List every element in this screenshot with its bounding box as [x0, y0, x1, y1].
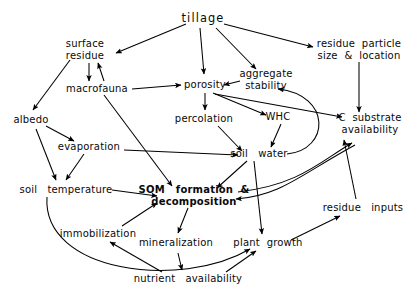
node-som: SOM formation & decomposition [139, 184, 250, 208]
edge-macrofauna-to-porosity [132, 85, 181, 89]
edge-surface-to-albedo [33, 60, 70, 110]
node-whc: WHC [266, 111, 291, 123]
node-nutrient: nutrient availability [134, 273, 242, 285]
node-soil_temp: soil temperature [20, 184, 113, 196]
node-plant_growth: plant growth [233, 237, 302, 249]
edge-whc-to-soil_water [271, 124, 281, 147]
node-residue_pls: residue particle size & location [317, 38, 401, 62]
edge-tillage-to-residue_pls [224, 24, 313, 47]
edge-mineralization-to-nutrient [178, 253, 182, 270]
node-surface: surface residue [66, 38, 104, 62]
node-mineralization: mineralization [139, 237, 213, 249]
edge-tillage-to-porosity [200, 28, 204, 74]
node-macrofauna: macrofauna [66, 83, 128, 95]
edge-residue_inputs-to-c_substrate [344, 140, 356, 199]
edge-albedo-to-soil_temp [36, 129, 56, 180]
edge-tillage-to-surface [116, 24, 186, 53]
edge-aggregate-to-porosity [224, 81, 240, 85]
node-albedo: albedo [13, 114, 48, 126]
edge-albedo-to-evaporation [46, 126, 74, 141]
edge-evaporation-to-soil_temp [66, 154, 84, 180]
node-evaporation: evaporation [58, 141, 120, 153]
node-c_substrate: C substrate availability [338, 112, 401, 136]
edge-soil_water-to-plant_growth [254, 161, 262, 234]
edge-tillage-to-aggregate [216, 28, 256, 69]
edge-som-to-mineralization [178, 208, 188, 233]
concept-map-canvas: tillagesurface residueresidue particle s… [0, 0, 417, 306]
edge-porosity-to-whc [213, 93, 266, 115]
node-soil_water: soil water [230, 148, 287, 160]
edge-evaporation-to-soil_water [124, 150, 238, 155]
node-aggregate: aggregate stability [239, 68, 292, 92]
node-porosity: porosity [184, 79, 226, 91]
node-immobilization: immobilization [60, 228, 136, 240]
node-tillage: tillage [182, 12, 225, 25]
edge-macrofauna-to-surface [98, 63, 104, 81]
node-residue_inputs: residue inputs [323, 202, 404, 214]
node-percolation: percolation [175, 113, 233, 125]
